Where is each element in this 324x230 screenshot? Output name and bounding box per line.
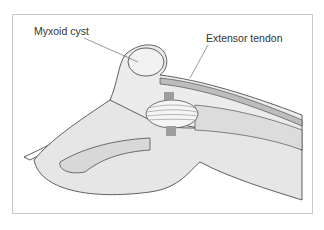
cyst-leader-line xyxy=(84,38,138,62)
label-myxoid-cyst: Myxoid cyst xyxy=(34,25,89,37)
tendon-leader-line xyxy=(190,45,208,78)
label-extensor-tendon: Extensor tendon xyxy=(206,32,282,44)
cartilage-top xyxy=(164,92,174,100)
cartilage-bottom xyxy=(166,126,176,136)
joint-capsule xyxy=(146,100,198,128)
myxoid-cyst xyxy=(128,48,164,76)
